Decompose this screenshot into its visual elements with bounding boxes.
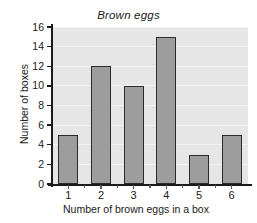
- y-axis-tick-label: 16: [18, 22, 44, 33]
- y-axis-tick-label: 14: [18, 41, 44, 52]
- chart-title: Brown eggs: [0, 9, 257, 21]
- x-axis-minor-tick-mark: [117, 185, 118, 188]
- bar-3: [124, 86, 144, 184]
- x-axis-minor-tick-mark: [182, 185, 183, 188]
- gridline: [52, 144, 248, 145]
- bar-4: [156, 37, 176, 184]
- bar-5: [189, 155, 209, 184]
- y-axis-tick-mark: [47, 124, 52, 125]
- gridline: [52, 105, 248, 106]
- x-axis-tick-label: 1: [56, 189, 80, 201]
- y-axis-tick-label: 10: [18, 80, 44, 91]
- y-axis-tick-mark: [47, 164, 52, 165]
- y-axis-tick-label: 6: [18, 120, 44, 131]
- y-axis-tick-mark: [47, 26, 52, 27]
- x-axis-tick-label: 2: [89, 189, 113, 201]
- x-axis-minor-tick-mark: [149, 185, 150, 188]
- gridline: [52, 46, 248, 47]
- y-axis-tick-mark: [47, 105, 52, 106]
- x-axis-label: Number of brown eggs in a box: [22, 203, 250, 215]
- y-axis-tick-mark: [47, 144, 52, 145]
- x-axis-tick-label: 6: [220, 189, 244, 201]
- gridline: [52, 164, 248, 165]
- bar-1: [58, 135, 78, 184]
- x-axis-tick-label: 5: [187, 189, 211, 201]
- y-axis-tick-label: 12: [18, 61, 44, 72]
- bar-6: [222, 135, 242, 184]
- bar-2: [91, 66, 111, 184]
- y-axis-tick-mark: [47, 66, 52, 67]
- y-axis-tick-label: 4: [18, 139, 44, 150]
- y-axis-tick-label: 2: [18, 159, 44, 170]
- y-axis-tick-label: 0: [18, 179, 44, 190]
- gridline: [52, 66, 248, 67]
- gridline: [52, 85, 248, 86]
- gridline: [52, 125, 248, 126]
- y-axis-tick-mark: [47, 85, 52, 86]
- y-axis-tick-mark: [47, 46, 52, 47]
- plot-area: [52, 27, 248, 184]
- x-axis-minor-tick-mark: [215, 185, 216, 188]
- x-axis-tick-label: 3: [122, 189, 146, 201]
- gridline: [52, 27, 248, 28]
- y-axis-tick-label: 8: [18, 100, 44, 111]
- bar-chart-figure: Brown eggs Number of boxes Number of bro…: [0, 0, 257, 223]
- x-axis-minor-tick-mark: [84, 185, 85, 188]
- x-axis-tick-label: 4: [154, 189, 178, 201]
- y-axis-tick-mark: [47, 183, 52, 184]
